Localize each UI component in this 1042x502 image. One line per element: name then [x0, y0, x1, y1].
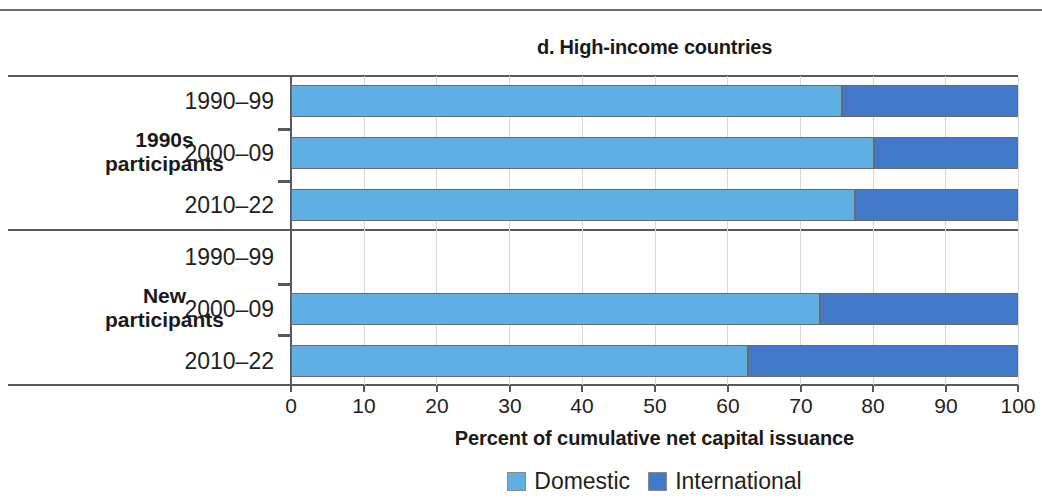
gridline-80 [873, 76, 874, 385]
gridline-20 [436, 76, 437, 385]
xtick-label-60: 60 [716, 394, 739, 418]
group-label-line1: 1990s [105, 128, 224, 152]
bar-segment-international [855, 189, 1018, 221]
legend-label-domestic: Domestic [534, 468, 630, 495]
group-label-line1: New [105, 284, 224, 308]
chart-title: d. High-income countries [291, 36, 1018, 59]
group-label-line2: participants [105, 308, 224, 332]
group-label-new-participants: New participants [105, 284, 224, 331]
chart-figure: d. High-income countries [0, 0, 1042, 502]
category-label-new-1990-99: 1990–99 [184, 244, 274, 271]
x-axis-title: Percent of cumulative net capital issuan… [291, 427, 1018, 450]
gridline-60 [727, 76, 728, 385]
legend-label-international: International [675, 468, 802, 495]
gridline-70 [800, 76, 801, 385]
bar-segment-international [874, 137, 1018, 169]
category-tick [278, 180, 291, 183]
chart-legend: Domestic International [291, 468, 1018, 495]
gridline-100 [1018, 76, 1019, 385]
gridline-30 [509, 76, 510, 385]
bar-segment-domestic [291, 137, 874, 169]
bar-segment-domestic [291, 189, 855, 221]
category-label-1990s-2010-22: 2010–22 [184, 192, 274, 219]
plot-area [291, 76, 1018, 385]
xtick-100 [1017, 385, 1019, 392]
xtick-label-30: 30 [498, 394, 521, 418]
category-label-1990s-1990-99: 1990–99 [184, 88, 274, 115]
xtick-60 [727, 385, 729, 392]
group-label-1990s-participants: 1990s participants [105, 128, 224, 175]
bar-segment-domestic [291, 293, 820, 325]
legend-item-international: International [648, 468, 802, 495]
xtick-80 [872, 385, 874, 392]
xtick-label-20: 20 [425, 394, 448, 418]
category-tick [278, 128, 291, 131]
category-tick [278, 334, 291, 337]
xtick-label-100: 100 [1000, 394, 1035, 418]
xtick-30 [509, 385, 511, 392]
top-divider-rule [0, 9, 1042, 11]
xtick-label-10: 10 [352, 394, 375, 418]
xtick-90 [945, 385, 947, 392]
legend-swatch-domestic-icon [507, 472, 526, 491]
bar-segment-domestic [291, 85, 842, 117]
bar-segment-domestic [291, 345, 748, 377]
xtick-label-70: 70 [789, 394, 812, 418]
xtick-label-50: 50 [643, 394, 666, 418]
category-tick [278, 283, 291, 286]
gridline-90 [945, 76, 946, 385]
xtick-label-40: 40 [570, 394, 593, 418]
gridline-10 [364, 76, 365, 385]
xtick-label-80: 80 [861, 394, 884, 418]
bar-segment-international [748, 345, 1018, 377]
legend-swatch-international-icon [648, 472, 667, 491]
bar-segment-international [842, 85, 1018, 117]
xtick-40 [581, 385, 583, 392]
xtick-70 [800, 385, 802, 392]
gridline-40 [582, 76, 583, 385]
xtick-label-90: 90 [934, 394, 957, 418]
group-label-line2: participants [105, 152, 224, 176]
xtick-50 [654, 385, 656, 392]
xtick-0 [290, 385, 292, 392]
xtick-20 [436, 385, 438, 392]
bar-segment-international [820, 293, 1018, 325]
legend-item-domestic: Domestic [507, 468, 630, 495]
gridline-50 [655, 76, 656, 385]
xtick-10 [363, 385, 365, 392]
category-label-new-2010-22: 2010–22 [184, 348, 274, 375]
xtick-label-0: 0 [285, 394, 297, 418]
